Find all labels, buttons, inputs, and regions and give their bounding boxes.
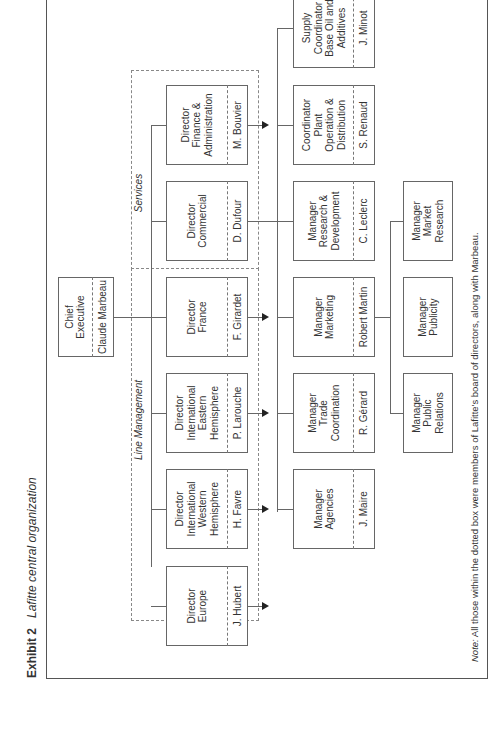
managers-spine: [277, 28, 278, 512]
chief-name: Claude Marbeau: [93, 279, 113, 355]
footnote-label: Note:: [469, 639, 481, 662]
directors-spine: [151, 125, 152, 567]
arrow-right-icon: [262, 602, 269, 610]
arrow-right-icon: [262, 121, 269, 129]
footnote: Note: All those within the dotted box we…: [468, 102, 482, 662]
frame-right-border: [487, 0, 488, 679]
sub-managers-spine: [390, 221, 391, 413]
frame-bottom-border: [46, 678, 488, 679]
exhibit-label: Exhibit 2: [27, 628, 39, 678]
line-management-label: Line Management: [132, 370, 146, 470]
commercial-to-rnd-connector: [248, 221, 293, 222]
arrow-right-icon: [262, 505, 269, 513]
footnote-text: All those within the dotted box were mem…: [469, 232, 481, 639]
frame-left-border: [46, 0, 47, 679]
exhibit-caption: Lafitte central organization: [27, 477, 39, 618]
arrow-right-icon: [262, 313, 269, 321]
marketing-to-sub-connector: [375, 317, 390, 318]
services-label: Services: [132, 168, 146, 218]
exhibit-title: Exhibit 2 Lafitte central organization: [24, 458, 42, 678]
chief-title: Chief Executive: [60, 279, 90, 355]
arrow-right-icon: [262, 409, 269, 417]
